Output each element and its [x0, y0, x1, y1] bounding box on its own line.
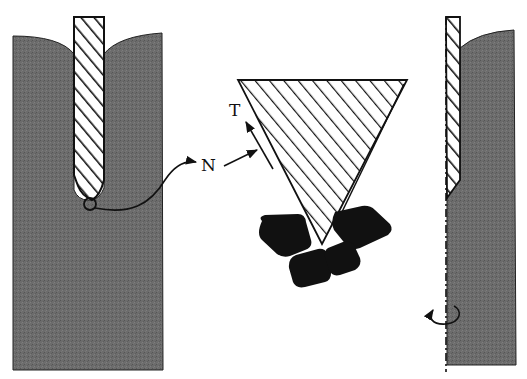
grain-3	[289, 249, 331, 288]
hatched-tool-left	[74, 17, 104, 200]
normal-force-arrow	[224, 150, 257, 166]
tangential-force-label: T	[229, 100, 241, 120]
hatched-tool-right	[446, 17, 460, 198]
right-panel	[431, 17, 516, 372]
normal-force-label: N	[201, 155, 216, 175]
grain-2	[332, 206, 391, 249]
left-panel	[13, 17, 196, 370]
diagram-canvas: N T	[0, 0, 527, 379]
grain-1	[259, 214, 311, 257]
center-panel: N T	[201, 80, 407, 287]
